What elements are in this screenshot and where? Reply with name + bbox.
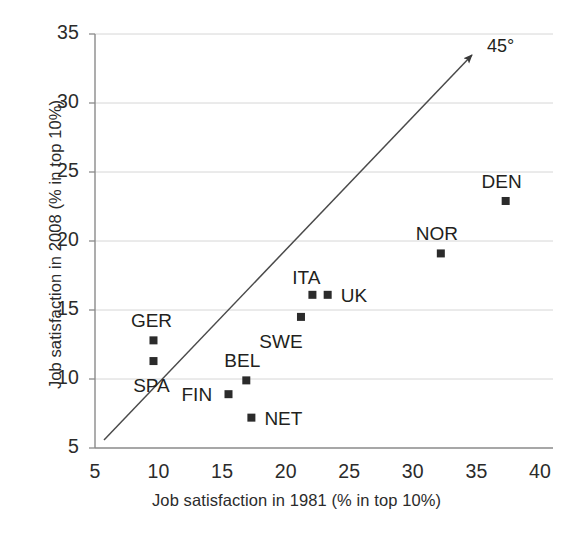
data-point-spa: [149, 357, 157, 365]
x-axis-title: Job satisfaction in 1981 (% in top 10%): [152, 491, 441, 510]
data-point-ger: [149, 336, 157, 344]
x-tick-label: 35: [454, 460, 498, 483]
data-point-label-nor: NOR: [416, 223, 458, 245]
y-axis-title: Job satisfaction in 2008 (% in top 10%): [46, 65, 65, 425]
x-tick-label: 5: [73, 460, 117, 483]
data-point-bel: [242, 376, 250, 384]
data-point-ita: [308, 291, 316, 299]
forty-five-degree-label: 45°: [487, 36, 514, 57]
data-point-net: [247, 414, 255, 422]
data-point-den: [502, 197, 510, 205]
data-point-label-net: NET: [264, 408, 302, 430]
data-point-swe: [297, 313, 305, 321]
data-point-label-den: DEN: [482, 171, 522, 193]
x-tick-label: 40: [518, 460, 562, 483]
data-point-nor: [437, 249, 445, 257]
x-tick-label: 15: [200, 460, 244, 483]
x-tick-label: 20: [264, 460, 308, 483]
data-point-fin: [225, 390, 233, 398]
data-point-label-fin: FIN: [182, 384, 213, 406]
data-point-label-spa: SPA: [133, 375, 170, 397]
data-point-label-bel: BEL: [224, 350, 260, 372]
data-point-label-swe: SWE: [259, 331, 302, 353]
y-tick-label: 35: [39, 21, 79, 44]
y-tick-marks: [89, 34, 95, 448]
data-point-label-ita: ITA: [292, 267, 320, 289]
x-tick-label: 30: [391, 460, 435, 483]
data-point-label-ger: GER: [131, 310, 172, 332]
scatter-chart-figure: 5101520253035 510152025303540 GERSPAFINB…: [0, 0, 585, 540]
y-tick-label: 5: [39, 435, 79, 458]
x-tick-label: 25: [327, 460, 371, 483]
x-tick-label: 10: [137, 460, 181, 483]
data-point-label-uk: UK: [341, 285, 367, 307]
data-point-uk: [324, 291, 332, 299]
